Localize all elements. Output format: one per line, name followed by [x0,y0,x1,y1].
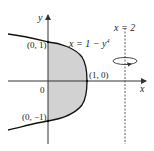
point-label-0-neg1: (0, −1) [22,112,47,122]
curve-equation-label: x = 1 − y4 [68,38,109,49]
point-label-0-1: (0, 1) [27,40,47,50]
origin-label: 0 [40,85,45,95]
point-label-1-0: (1, 0) [89,70,109,80]
point-0-1 [47,41,49,43]
point-0-neg1 [47,120,49,122]
rotation-axis-label: x = 2 [113,22,135,33]
x-axis-label: x [139,83,145,94]
point-1-0 [86,80,88,82]
y-axis-label: y [37,12,43,23]
diagram-canvas: y x 0 (0, 1) (1, 0) (0, −1) x = 1 − y4 x… [0,0,154,151]
